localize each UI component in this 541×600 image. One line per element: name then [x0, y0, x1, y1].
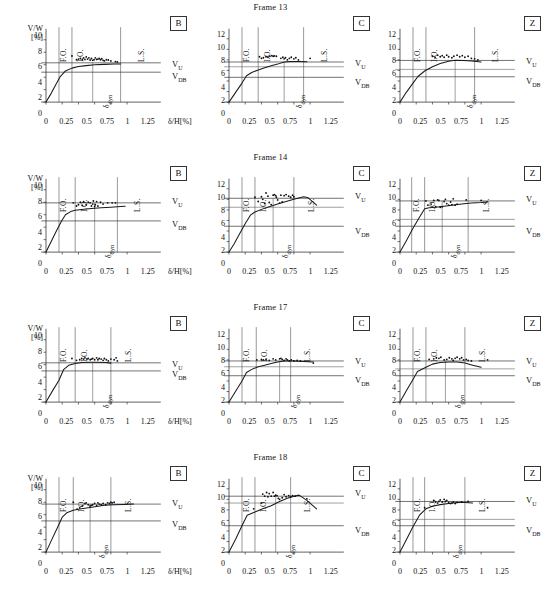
y-tick: 10 [382, 193, 396, 202]
data-point [288, 195, 290, 197]
data-point [103, 60, 105, 62]
data-point [440, 356, 442, 358]
data-point [270, 495, 272, 497]
data-point [453, 55, 455, 57]
data-point [279, 498, 281, 500]
limit-label-ls: L.S. [320, 48, 329, 62]
y-tick: 8 [211, 206, 225, 215]
data-point [259, 56, 261, 58]
data-point [91, 58, 93, 60]
chart-panel-z: 02468101200.250.50.7511.25F.O.I.O.L.S.δd… [358, 164, 541, 300]
y-tick: 6 [211, 69, 225, 78]
dyn-label: δdyn [295, 95, 306, 108]
y-tick: 6 [211, 219, 225, 228]
limit-label-fo: F.O. [413, 498, 422, 512]
y-tick: 8 [382, 206, 396, 215]
x-tick: 1.25 [318, 567, 344, 576]
data-point [295, 57, 297, 59]
data-point [470, 57, 472, 59]
vu-label: VU [526, 356, 536, 368]
panel-badge: Z [524, 166, 541, 181]
limit-label-fo: F.O. [242, 48, 251, 62]
chart-panel-c: 02468101200.250.50.7511.25F.O.I.O.L.S.δd… [183, 314, 371, 450]
x-tick: 1.25 [489, 417, 515, 426]
data-point [256, 359, 258, 361]
data-point [92, 358, 94, 360]
data-point [279, 202, 281, 204]
data-point [115, 61, 117, 63]
y-tick: 8 [382, 356, 396, 365]
data-point [253, 508, 255, 510]
y-tick: 4 [28, 378, 42, 387]
data-point [267, 496, 269, 498]
y-tick: 8 [382, 506, 396, 515]
limit-label-ls: L.S. [478, 498, 487, 512]
data-point [456, 502, 458, 504]
data-point [446, 358, 448, 360]
data-point [456, 54, 458, 56]
data-point [105, 59, 107, 61]
data-point [267, 195, 269, 197]
plot-area [229, 328, 347, 414]
y-tick: 8 [28, 47, 42, 56]
data-point [446, 499, 448, 501]
data-point [110, 358, 112, 360]
data-point [115, 357, 117, 359]
y-tick: 2 [382, 96, 396, 105]
data-point [102, 203, 104, 205]
y-tick: 2 [382, 546, 396, 555]
limit-label-io: I.O. [76, 49, 85, 62]
y-tick: 6 [211, 519, 225, 528]
y-tick: 6 [28, 362, 42, 371]
y-tick: 12 [382, 30, 396, 39]
dyn-label: δdyn [450, 245, 461, 258]
data-point [102, 359, 104, 361]
y-tick: 12 [211, 480, 225, 489]
data-point [275, 359, 277, 361]
data-point [116, 61, 118, 63]
data-point [111, 202, 113, 204]
data-point [92, 504, 94, 506]
y-tick: 8 [211, 356, 225, 365]
y-tick: 2 [382, 246, 396, 255]
data-point [285, 194, 287, 196]
data-point [290, 496, 292, 498]
data-point [294, 495, 296, 497]
chart-panel-c: 02468101200.250.50.7511.25F.O.I.O.L.S.δd… [183, 164, 371, 300]
data-point [443, 56, 445, 58]
data-point [443, 498, 445, 500]
data-point [105, 504, 107, 506]
figure-sheet: Frame 13V/W [%]024681000.250.50.7511.25δ… [0, 0, 541, 600]
data-point [439, 206, 441, 208]
data-point [448, 56, 450, 58]
limit-label-ls: L.S. [482, 198, 491, 212]
chart-panel-b: V/W [%]024681000.250.50.7511.25δ/H[%]F.O… [0, 464, 188, 600]
data-point [296, 360, 298, 362]
data-point [448, 204, 450, 206]
data-point [275, 196, 277, 198]
data-point [94, 206, 96, 208]
data-point [107, 502, 109, 504]
y-tick: 6 [28, 62, 42, 71]
data-point [76, 359, 78, 361]
limit-label-fo: F.O. [59, 48, 68, 62]
data-point [292, 194, 294, 196]
data-point [293, 58, 295, 60]
data-point [465, 358, 467, 360]
y-tick: 4 [382, 233, 396, 242]
y-tick: 6 [382, 219, 396, 228]
limit-label-ls: L.S. [124, 348, 133, 362]
dyn-label: δdyn [452, 545, 463, 558]
data-point [448, 357, 450, 359]
chart-panel-c: 02468101200.250.50.7511.25F.O.I.O.L.S.δd… [183, 464, 371, 600]
data-point [94, 359, 96, 361]
y-tick: 2 [211, 96, 225, 105]
chart-panel-b: V/W [%]024681000.250.50.7511.25δ/H[%]F.O… [0, 314, 188, 450]
chart-panel-z: 02468101200.250.50.7511.25F.O.I.O.L.S.δd… [358, 464, 541, 600]
y-tick: 10 [382, 493, 396, 502]
data-point [71, 358, 73, 360]
data-point [286, 359, 288, 361]
limit-label-ls: L.S. [491, 48, 500, 62]
y-tick: 4 [211, 533, 225, 542]
chart-panel-c: 02468101200.250.50.7511.25F.O.I.O.L.S.δd… [183, 14, 371, 150]
